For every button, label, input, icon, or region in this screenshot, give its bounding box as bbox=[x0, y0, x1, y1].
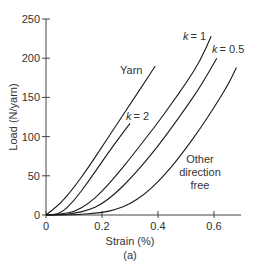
label-other-direction-free-1: Other bbox=[186, 153, 214, 165]
y-tick-label: 100 bbox=[22, 131, 40, 143]
curve-other-direction-free bbox=[46, 68, 236, 215]
k-symbol: k bbox=[183, 30, 189, 42]
y-tick-label: 50 bbox=[28, 170, 40, 182]
y-tick-label: 0 bbox=[34, 209, 40, 221]
k-symbol: k bbox=[212, 43, 218, 55]
label-k05: k= 0.5 bbox=[212, 43, 244, 55]
x-axis-title: Strain (%) bbox=[106, 235, 155, 247]
label-other-direction-free-2: direction bbox=[179, 166, 221, 178]
k-symbol: k bbox=[126, 110, 132, 122]
label-k2: k= 2 bbox=[126, 110, 149, 122]
label-yarn: Yarn bbox=[120, 64, 142, 76]
y-tick-label: 200 bbox=[22, 52, 40, 64]
y-axis-title: Load (N/yarn) bbox=[7, 83, 19, 150]
x-tick-label: 0.4 bbox=[150, 220, 165, 232]
figure-caption: (a) bbox=[123, 249, 136, 261]
load-strain-chart: 050100150200250 00.20.40.6 Load (N/yarn)… bbox=[0, 0, 257, 272]
curve-k-2 bbox=[46, 123, 130, 215]
curve-k-0-5 bbox=[46, 58, 217, 215]
label-k1: k= 1 bbox=[183, 30, 206, 42]
x-tick-label: 0.2 bbox=[94, 220, 109, 232]
x-tick-label: 0.6 bbox=[206, 220, 221, 232]
y-tick-label: 250 bbox=[22, 13, 40, 25]
y-tick-label: 150 bbox=[22, 91, 40, 103]
label-other-direction-free-3: free bbox=[191, 179, 210, 191]
x-tick-label: 0 bbox=[43, 220, 49, 232]
